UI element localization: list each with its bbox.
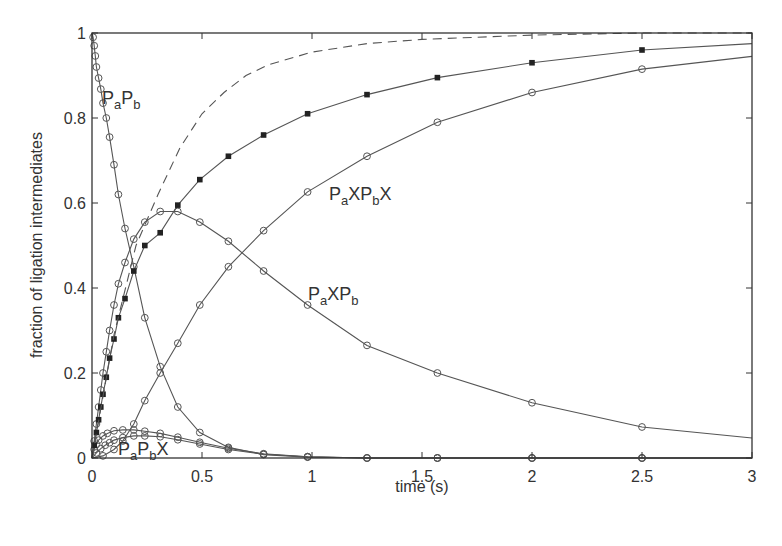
filled-square-marker	[435, 75, 441, 81]
filled-square-marker	[131, 268, 137, 274]
series-papb	[90, 33, 752, 461]
x-tick-label: 1	[308, 468, 317, 485]
x-tick-label: 0	[88, 468, 97, 485]
filled-square-marker	[107, 355, 113, 361]
series-label: PaPbX	[118, 439, 169, 463]
series-label: PaXPbX	[329, 184, 392, 208]
series-line	[92, 212, 752, 459]
filled-square-marker	[142, 243, 148, 249]
y-tick-label: 1	[77, 25, 86, 42]
filled-square-marker	[639, 47, 645, 53]
x-axis-label: time (s)	[395, 478, 448, 495]
y-tick-label: 0.4	[64, 280, 86, 297]
y-tick-label: 0	[77, 450, 86, 467]
filled-square-marker	[122, 296, 128, 302]
filled-square-marker	[226, 153, 232, 159]
axis-ticks: 00.511.522.5300.20.40.60.81	[64, 25, 757, 485]
series-label: PaPb	[102, 88, 141, 112]
x-tick-label: 2	[528, 468, 537, 485]
series-labels: PaPbPaPbXPaXPbPaXPbX	[102, 88, 392, 463]
filled-square-marker	[157, 230, 163, 236]
series-line	[92, 44, 752, 458]
series-layer	[90, 33, 752, 461]
series-model	[92, 33, 752, 458]
filled-square-marker	[197, 177, 203, 183]
filled-square-marker	[364, 92, 370, 98]
plot-frame	[92, 33, 752, 458]
x-tick-label: 0.5	[191, 468, 213, 485]
series-label: PaXPb	[308, 284, 359, 308]
series-paxpbx	[92, 56, 752, 459]
series-papbx	[91, 427, 752, 462]
filled-square-marker	[175, 202, 181, 208]
filled-square-marker	[305, 111, 311, 117]
ligation-kinetics-chart: 00.511.522.5300.20.40.60.81 PaPbPaPbXPaX…	[0, 0, 782, 546]
series-line	[92, 56, 752, 458]
y-tick-label: 0.2	[64, 365, 86, 382]
x-tick-label: 2.5	[631, 468, 653, 485]
y-tick-label: 0.8	[64, 110, 86, 127]
series-line	[92, 33, 752, 458]
filled-square-marker	[261, 132, 267, 138]
y-tick-label: 0.6	[64, 195, 86, 212]
x-tick-label: 3	[748, 468, 757, 485]
y-axis-label: fraction of ligation intermediates	[28, 132, 45, 358]
series-total	[91, 44, 752, 458]
series-line	[92, 33, 752, 458]
filled-square-marker	[529, 60, 535, 66]
